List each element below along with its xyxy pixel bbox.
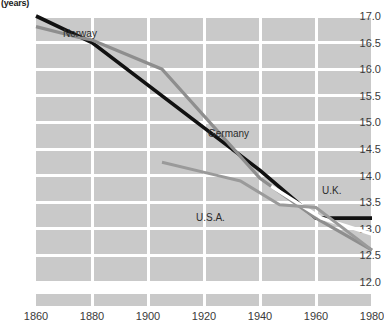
series-label-usa: U.S.A. — [196, 212, 225, 223]
series-label-germany: Germany — [208, 128, 249, 139]
series-label-uk: U.K. — [322, 185, 341, 196]
series-label-norway: Norway — [63, 28, 97, 39]
